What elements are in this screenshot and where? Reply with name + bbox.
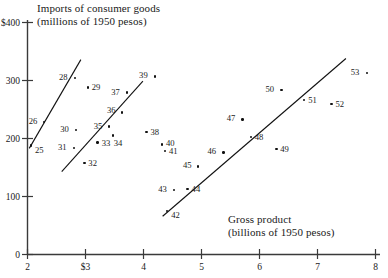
- x-axis-title: Gross product (billions of 1950 pesos): [228, 213, 335, 239]
- data-point-label-33: 33: [102, 139, 111, 148]
- data-point-marker: [241, 118, 243, 120]
- data-point-label-41: 41: [169, 147, 178, 156]
- data-point-marker: [250, 136, 252, 138]
- data-point-marker: [197, 165, 199, 167]
- data-point-label-34: 34: [114, 139, 123, 148]
- y-axis-title: Imports of consumer goods (millions of 1…: [37, 2, 160, 28]
- y-tick-label-100: 100: [0, 192, 20, 202]
- data-point-label-39: 39: [139, 71, 148, 80]
- y-axis-title-line1: Imports of consumer goods: [37, 2, 160, 15]
- data-point-marker: [73, 147, 75, 149]
- trend-line-segment-2: [62, 81, 143, 171]
- data-point-marker: [30, 144, 32, 146]
- y-tick-label-300: 300: [0, 76, 20, 86]
- data-point-label-42: 42: [171, 211, 180, 220]
- data-point-label-45: 45: [183, 161, 192, 170]
- data-point-marker: [154, 75, 156, 77]
- data-point-label-29: 29: [92, 83, 101, 92]
- data-point-label-30: 30: [60, 125, 69, 134]
- x-tick-label-2: 2: [14, 262, 42, 272]
- data-point-label-35: 35: [94, 122, 103, 131]
- data-point-label-47: 47: [227, 114, 236, 123]
- x-tick-label-5: 5: [188, 262, 216, 272]
- data-point-label-51: 51: [308, 96, 317, 105]
- data-point-label-50: 50: [266, 85, 275, 94]
- data-point-marker: [161, 143, 163, 145]
- data-point-label-26: 26: [29, 117, 38, 126]
- data-point-label-46: 46: [208, 147, 217, 156]
- data-point-label-43: 43: [158, 185, 167, 194]
- trend-lines: [29, 58, 346, 216]
- data-point-marker: [145, 131, 147, 133]
- y-tick-label-0: 0: [0, 250, 20, 260]
- x-tick-label-3: $3: [72, 262, 100, 272]
- data-point-marker: [121, 111, 123, 113]
- x-tick-label-4: 4: [130, 262, 158, 272]
- data-point-label-44: 44: [192, 185, 201, 194]
- x-tick-label-6: 6: [246, 262, 274, 272]
- data-point-label-38: 38: [150, 128, 159, 137]
- data-point-label-48: 48: [255, 133, 264, 142]
- x-axis-title-line1: Gross product: [228, 213, 335, 226]
- data-point-marker: [275, 148, 277, 150]
- data-point-marker: [222, 151, 224, 153]
- data-point-label-37: 37: [111, 88, 120, 97]
- x-axis-title-line2: (billions of 1950 pesos): [228, 226, 335, 239]
- data-point-label-52: 52: [335, 100, 344, 109]
- scatter-chart: Imports of consumer goods (millions of 1…: [0, 0, 388, 278]
- data-point-marker: [108, 125, 110, 127]
- data-point-marker: [330, 103, 332, 105]
- data-point-label-53: 53: [351, 68, 360, 77]
- data-point-label-31: 31: [58, 143, 67, 152]
- data-point-marker: [87, 86, 89, 88]
- data-point-label-36: 36: [107, 106, 116, 115]
- data-point-label-49: 49: [280, 145, 289, 154]
- data-point-label-28: 28: [59, 73, 68, 82]
- data-point-marker: [112, 134, 114, 136]
- data-point-label-25: 25: [35, 146, 44, 155]
- y-axis-title-line2: (millions of 1950 pesos): [37, 15, 160, 28]
- data-point-marker: [96, 141, 98, 143]
- x-tick-label-7: 7: [304, 262, 332, 272]
- y-tick-label-200: 200: [0, 134, 20, 144]
- data-point-marker: [280, 89, 282, 91]
- x-tick-label-8: 8: [362, 262, 388, 272]
- data-point-marker: [83, 162, 85, 164]
- y-tick-label-400: $400: [0, 18, 20, 28]
- data-point-marker: [186, 188, 188, 190]
- trend-line-segment-1: [29, 60, 81, 149]
- data-point-label-32: 32: [88, 159, 97, 168]
